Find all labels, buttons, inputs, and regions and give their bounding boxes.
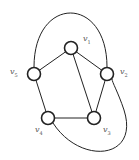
node-v3 — [88, 112, 101, 125]
graph-diagram: v1v2v3v4v5 — [0, 0, 139, 160]
node-v2 — [101, 68, 114, 81]
node-v1 — [65, 42, 78, 55]
node-label-v5: v5 — [10, 68, 18, 78]
node-v4 — [42, 112, 55, 125]
node-label-v1: v1 — [83, 35, 91, 45]
node-label-v2: v2 — [120, 68, 128, 78]
edge-v1-v3 — [71, 48, 94, 118]
node-label-v4: v4 — [35, 126, 43, 136]
curved-edge-v5-v2 — [34, 13, 107, 67]
node-v5 — [28, 68, 41, 81]
node-label-v3: v3 — [103, 126, 111, 136]
graph-canvas — [0, 0, 139, 160]
